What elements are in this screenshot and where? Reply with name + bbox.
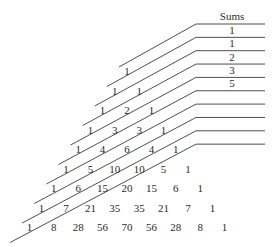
sums-column: 11235 [229, 24, 235, 89]
triangle-entry: 8 [51, 221, 57, 233]
sum-value: 2 [229, 51, 235, 63]
triangle-entry: 21 [85, 202, 96, 214]
triangle-entry: 21 [158, 202, 169, 214]
triangle-entry: 10 [109, 163, 121, 175]
triangle-entry: 1 [149, 104, 155, 116]
triangle-entry: 1 [112, 85, 118, 97]
diagonal-line [107, 37, 265, 86]
triangle-entry: 1 [63, 163, 69, 175]
sum-value: 5 [229, 77, 235, 89]
triangle-entry: 1 [51, 182, 57, 194]
pascal-triangle-diagram: Sums 11235 11112113311464115101051161520… [0, 0, 278, 247]
triangle-entry: 28 [73, 221, 85, 233]
triangle-entry: 3 [112, 124, 118, 136]
triangle-entry: 7 [63, 202, 69, 214]
sum-value: 3 [229, 64, 235, 76]
triangle-entry: 1 [100, 104, 106, 116]
triangle-entry: 35 [134, 202, 146, 214]
triangle-entry: 1 [185, 163, 191, 175]
sums-header: Sums [220, 10, 244, 22]
triangle-numbers: 1111211331146411510105116152015611721353… [27, 65, 228, 233]
triangle-entry: 70 [122, 221, 134, 233]
triangle-entry: 1 [210, 202, 216, 214]
triangle-entry: 1 [197, 182, 203, 194]
diagonal-line [119, 24, 265, 67]
triangle-entry: 28 [170, 221, 182, 233]
triangle-entry: 1 [88, 124, 94, 136]
triangle-entry: 15 [146, 182, 158, 194]
triangle-entry: 6 [124, 143, 130, 155]
triangle-entry: 3 [136, 124, 142, 136]
triangle-entry: 4 [149, 143, 155, 155]
triangle-entry: 1 [222, 221, 228, 233]
triangle-entry: 1 [124, 65, 130, 77]
triangle-entry: 1 [173, 143, 179, 155]
diagram-canvas: Sums 11235 11112113311464115101051161520… [0, 0, 278, 247]
triangle-entry: 6 [75, 182, 81, 194]
diagonal-line [95, 51, 265, 106]
triangle-entry: 6 [173, 182, 179, 194]
triangle-entry: 2 [124, 104, 130, 116]
triangle-entry: 8 [197, 221, 203, 233]
triangle-entry: 1 [27, 221, 33, 233]
triangle-entry: 56 [97, 221, 109, 233]
triangle-entry: 5 [161, 163, 167, 175]
triangle-entry: 1 [75, 143, 81, 155]
triangle-entry: 35 [109, 202, 121, 214]
triangle-entry: 1 [136, 85, 142, 97]
triangle-entry: 1 [39, 202, 45, 214]
triangle-entry: 10 [134, 163, 146, 175]
triangle-entry: 7 [185, 202, 191, 214]
triangle-entry: 5 [88, 163, 94, 175]
sum-value: 1 [229, 24, 235, 36]
triangle-entry: 4 [100, 143, 106, 155]
triangle-entry: 20 [122, 182, 134, 194]
triangle-entry: 15 [97, 182, 109, 194]
triangle-entry: 1 [161, 124, 167, 136]
triangle-entry: 56 [146, 221, 158, 233]
sum-value: 1 [229, 37, 235, 49]
